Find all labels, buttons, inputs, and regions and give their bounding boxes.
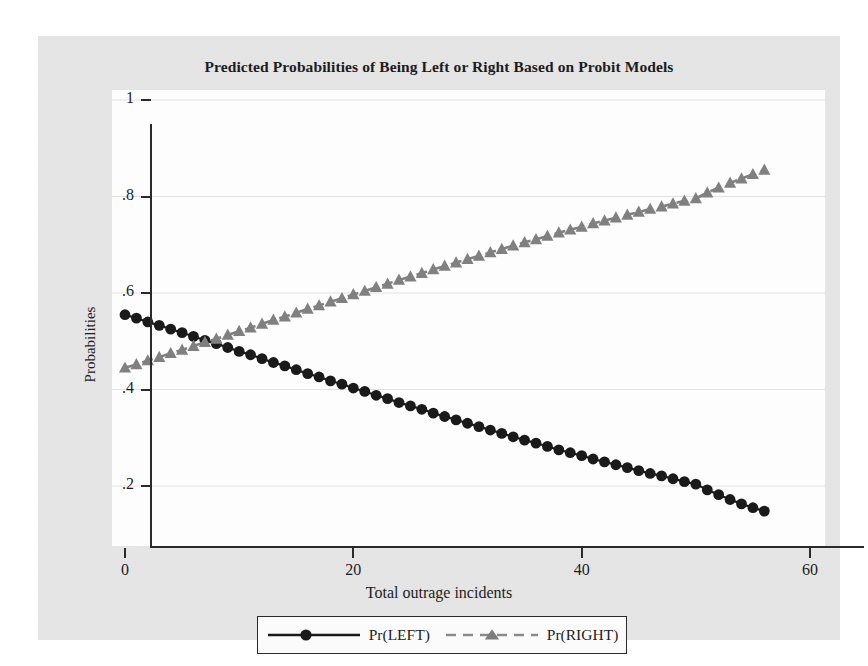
data-point-triangle-icon	[404, 270, 416, 281]
y-tick-mark	[141, 485, 151, 487]
data-point-circle-icon	[222, 342, 233, 353]
data-point-triangle-icon	[610, 211, 622, 222]
data-point-circle-icon	[633, 465, 644, 476]
data-point-circle-icon	[485, 425, 496, 436]
data-point-circle-icon	[337, 379, 348, 390]
data-point-triangle-icon	[439, 260, 451, 271]
data-point-circle-icon	[245, 349, 256, 360]
data-point-circle-icon	[542, 441, 553, 452]
data-point-triangle-icon	[644, 203, 656, 214]
y-tick-mark	[141, 389, 151, 391]
data-point-circle-icon	[531, 438, 542, 449]
data-point-triangle-icon	[541, 230, 553, 241]
data-point-triangle-icon	[576, 221, 588, 232]
data-point-circle-icon	[382, 393, 393, 404]
data-point-circle-icon	[359, 386, 370, 397]
data-point-circle-icon	[611, 459, 622, 470]
x-tick-label: 40	[552, 561, 612, 579]
data-point-circle-icon	[348, 383, 359, 394]
plot-area	[112, 90, 825, 546]
data-point-circle-icon	[496, 428, 507, 439]
data-point-circle-icon	[439, 411, 450, 422]
legend-entry-left[interactable]: Pr(LEFT)	[266, 626, 430, 644]
data-point-circle-icon	[690, 479, 701, 490]
data-point-circle-icon	[736, 498, 747, 509]
data-point-circle-icon	[553, 444, 564, 455]
data-point-circle-icon	[154, 320, 165, 331]
y-tick-label: .8	[78, 186, 134, 204]
x-tick-mark	[352, 548, 354, 558]
data-point-circle-icon	[702, 484, 713, 495]
data-point-circle-icon	[645, 468, 656, 479]
data-point-circle-icon	[177, 327, 188, 338]
data-point-circle-icon	[428, 408, 439, 419]
legend-swatch-dashed-triangle-icon	[444, 626, 540, 644]
data-point-circle-icon	[474, 421, 485, 432]
data-point-triangle-icon	[713, 181, 725, 192]
data-point-circle-icon	[519, 435, 530, 446]
legend-label-left: Pr(LEFT)	[369, 626, 430, 644]
data-point-triangle-icon	[507, 239, 519, 250]
y-tick-mark	[141, 292, 151, 294]
x-tick-label: 0	[95, 561, 155, 579]
data-point-circle-icon	[314, 372, 325, 383]
data-point-circle-icon	[713, 489, 724, 500]
chart-title: Predicted Probabilities of Being Left or…	[38, 58, 840, 76]
data-point-triangle-icon	[130, 358, 142, 369]
data-point-triangle-icon	[302, 303, 314, 314]
data-point-circle-icon	[588, 454, 599, 465]
data-point-circle-icon	[679, 476, 690, 487]
chart-legend: Pr(LEFT) Pr(RIGHT)	[257, 616, 627, 654]
data-point-circle-icon	[668, 473, 679, 484]
data-point-circle-icon	[371, 390, 382, 401]
series-right	[119, 164, 770, 373]
data-point-triangle-icon	[336, 292, 348, 303]
figure-background: Predicted Probabilities of Being Left or…	[38, 36, 840, 640]
data-point-circle-icon	[405, 401, 416, 412]
data-point-circle-icon	[462, 418, 473, 429]
data-point-triangle-icon	[473, 249, 485, 260]
data-point-circle-icon	[759, 506, 770, 517]
x-tick-mark	[124, 548, 126, 558]
y-tick-label: .2	[78, 475, 134, 493]
data-point-circle-icon	[234, 346, 245, 357]
data-point-circle-icon	[394, 397, 405, 408]
data-point-triangle-icon	[165, 347, 177, 358]
legend-swatch-solid-circle-icon	[266, 626, 362, 644]
data-point-triangle-icon	[747, 168, 759, 179]
chart-canvas	[112, 90, 825, 546]
data-point-triangle-icon	[370, 281, 382, 292]
data-point-circle-icon	[257, 353, 268, 364]
data-point-circle-icon	[622, 462, 633, 473]
x-tick-label: 60	[780, 561, 840, 579]
data-point-circle-icon	[131, 313, 142, 324]
y-tick-label: 1	[78, 89, 134, 107]
y-tick-mark	[141, 99, 151, 101]
legend-entry-right[interactable]: Pr(RIGHT)	[444, 626, 618, 644]
data-point-circle-icon	[508, 431, 519, 442]
data-point-circle-icon	[565, 447, 576, 458]
data-point-circle-icon	[120, 309, 131, 320]
data-point-circle-icon	[165, 324, 176, 335]
x-axis-line	[150, 546, 864, 548]
data-point-triangle-icon	[758, 164, 770, 175]
data-point-circle-icon	[656, 470, 667, 481]
data-point-circle-icon	[748, 502, 759, 513]
data-point-circle-icon	[325, 375, 336, 386]
data-point-circle-icon	[451, 415, 462, 426]
data-point-circle-icon	[576, 450, 587, 461]
legend-label-right: Pr(RIGHT)	[547, 626, 618, 644]
data-point-circle-icon	[599, 456, 610, 467]
data-series-group	[119, 164, 770, 517]
data-point-triangle-icon	[267, 314, 279, 325]
x-tick-mark	[809, 548, 811, 558]
data-point-circle-icon	[302, 368, 313, 379]
x-tick-label: 20	[323, 561, 383, 579]
data-point-circle-icon	[416, 404, 427, 415]
data-point-triangle-icon	[233, 325, 245, 336]
data-point-circle-icon	[291, 364, 302, 375]
x-tick-mark	[581, 548, 583, 558]
data-point-circle-icon	[725, 494, 736, 505]
y-axis-title: Probabilities	[82, 265, 99, 425]
y-tick-mark	[141, 196, 151, 198]
